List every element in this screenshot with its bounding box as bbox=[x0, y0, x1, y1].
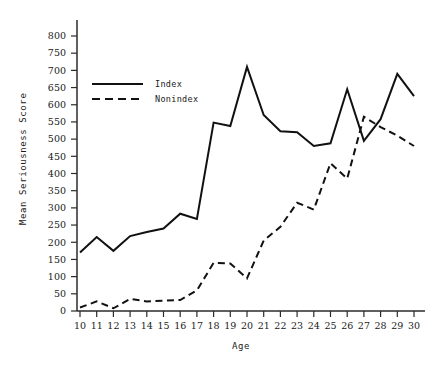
y-tick-label: 800 bbox=[48, 30, 66, 41]
y-tick-label: 650 bbox=[48, 82, 66, 93]
series-line-nonindex bbox=[80, 117, 414, 308]
legend-label-nonindex: Nonindex bbox=[155, 94, 198, 104]
series-group bbox=[80, 67, 414, 308]
x-tick-label: 16 bbox=[174, 320, 186, 331]
legend: Index Nonindex bbox=[92, 79, 198, 104]
series-line-index bbox=[80, 67, 414, 253]
x-tick-label: 18 bbox=[208, 320, 220, 331]
y-tick-label: 250 bbox=[48, 219, 66, 230]
x-tick-label: 13 bbox=[124, 320, 136, 331]
x-tick-label: 14 bbox=[141, 320, 153, 331]
x-tick-label: 29 bbox=[391, 320, 403, 331]
y-tick-label: 300 bbox=[48, 202, 66, 213]
x-tick-label: 27 bbox=[358, 320, 370, 331]
x-tick-label: 12 bbox=[107, 320, 119, 331]
y-tick-label: 550 bbox=[48, 116, 66, 127]
x-tick-label: 24 bbox=[308, 320, 320, 331]
y-tick-label: 200 bbox=[48, 237, 66, 248]
y-tick-label: 750 bbox=[48, 47, 66, 58]
x-tick-label: 28 bbox=[375, 320, 387, 331]
x-tick-label: 25 bbox=[324, 320, 336, 331]
x-axis-ticks: 1011121314151617181920212223242526272829… bbox=[74, 311, 420, 331]
x-tick-label: 30 bbox=[408, 320, 420, 331]
y-tick-label: 400 bbox=[48, 168, 66, 179]
legend-label-index: Index bbox=[155, 79, 182, 89]
x-tick-label: 15 bbox=[157, 320, 169, 331]
y-tick-label: 700 bbox=[48, 65, 66, 76]
x-tick-label: 21 bbox=[258, 320, 270, 331]
y-axis-ticks: 0501001502002503003504004505005506006507… bbox=[48, 30, 77, 316]
x-tick-label: 23 bbox=[291, 320, 303, 331]
x-tick-label: 19 bbox=[224, 320, 236, 331]
y-tick-label: 450 bbox=[48, 151, 66, 162]
y-tick-label: 0 bbox=[60, 305, 66, 316]
y-tick-label: 600 bbox=[48, 99, 66, 110]
y-tick-label: 350 bbox=[48, 185, 66, 196]
x-tick-label: 22 bbox=[274, 320, 286, 331]
x-tick-label: 26 bbox=[341, 320, 353, 331]
y-axis-title: Mean Seriousness Score bbox=[18, 93, 28, 225]
x-axis-title: Age bbox=[232, 341, 250, 351]
x-tick-label: 11 bbox=[91, 320, 103, 331]
x-tick-label: 17 bbox=[191, 320, 203, 331]
y-tick-label: 100 bbox=[48, 271, 66, 282]
y-tick-label: 50 bbox=[54, 288, 66, 299]
y-tick-label: 150 bbox=[48, 254, 66, 265]
x-tick-label: 20 bbox=[241, 320, 253, 331]
chart-container: Mean Seriousness Score 05010015020025030… bbox=[0, 0, 446, 366]
line-chart: Mean Seriousness Score 05010015020025030… bbox=[0, 0, 446, 366]
x-tick-label: 10 bbox=[74, 320, 86, 331]
y-tick-label: 500 bbox=[48, 133, 66, 144]
